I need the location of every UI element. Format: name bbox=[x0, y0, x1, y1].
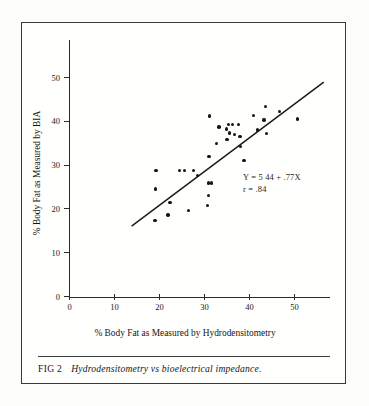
figure-caption: FIG 2Hydrodensitometry vs bioelectrical … bbox=[38, 363, 330, 374]
figure-root: 01020304050 01020304050 Y = 5 44 + .77X … bbox=[0, 0, 369, 406]
caption-divider bbox=[38, 356, 330, 357]
caption-figure-number: FIG 2 bbox=[38, 363, 62, 374]
caption-title: Hydrodensitometry vs bioelectrical imped… bbox=[71, 363, 261, 374]
figure-border bbox=[21, 22, 346, 384]
